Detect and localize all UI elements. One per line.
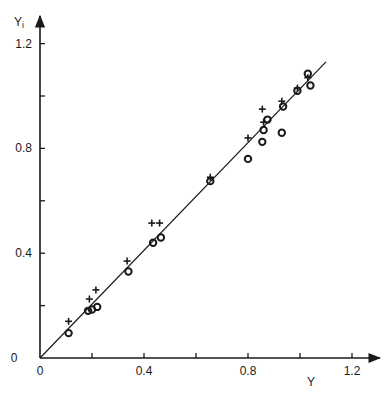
- x-tick-label: 0: [37, 364, 44, 378]
- circle-marker: [260, 127, 266, 133]
- y-tick-label: 0.8: [15, 141, 32, 155]
- circle-marker: [264, 116, 270, 122]
- circle-marker: [305, 71, 311, 77]
- circle-marker: [150, 240, 156, 246]
- x-tick-label: 0.8: [240, 364, 257, 378]
- x-tick-label: 0.4: [136, 364, 153, 378]
- series-plus: [65, 74, 311, 325]
- y-axis-label-main: Y: [14, 15, 22, 29]
- circle-marker: [245, 156, 251, 162]
- circle-marker: [158, 234, 164, 240]
- circle-marker: [259, 139, 265, 145]
- circle-marker: [125, 268, 131, 274]
- y-tick-label: 0: [11, 351, 18, 365]
- plus-marker: [124, 258, 131, 265]
- circle-marker: [307, 82, 313, 88]
- y-tick-label: 0.4: [15, 246, 32, 260]
- fit-line: [40, 62, 326, 358]
- plus-marker: [148, 220, 155, 227]
- plus-marker: [92, 286, 99, 293]
- plus-marker: [156, 220, 163, 227]
- y-axis-label-subscript: i: [22, 20, 24, 30]
- y-axis-label: Yi: [14, 15, 24, 30]
- plus-marker: [259, 106, 266, 113]
- y-tick-labels: 00.40.81.2: [11, 37, 33, 365]
- scatter-chart: 00.40.81.2 00.40.81.2 Y Yi: [0, 0, 392, 403]
- x-axis-label: Y: [307, 375, 315, 389]
- x-tick-label: 1.2: [344, 364, 361, 378]
- circle-marker: [279, 129, 285, 135]
- circle-marker: [65, 330, 71, 336]
- plus-marker: [65, 318, 72, 325]
- circle-marker: [94, 304, 100, 310]
- plus-marker: [86, 296, 93, 303]
- y-tick-label: 1.2: [15, 37, 32, 51]
